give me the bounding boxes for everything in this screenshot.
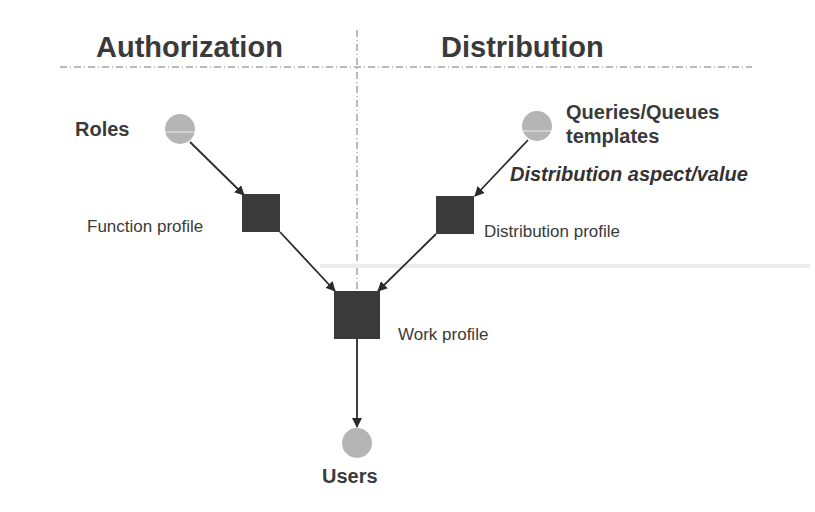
roles-node [165,114,195,144]
users-label: Users [322,466,378,486]
queries-node [522,111,552,141]
edge-distribution-to-work [378,234,436,291]
roles-label: Roles [75,119,129,139]
distribution-profile-label: Distribution profile [484,223,620,240]
users-node [342,428,372,458]
edge-roles-to-function [190,142,244,195]
work-profile-node [334,291,380,339]
queries-label-line2: templates [566,126,659,146]
edge-function-to-work [280,232,335,291]
function-profile-label: Function profile [87,218,203,235]
distribution-profile-node [436,196,474,234]
queries-label-line1: Queries/Queues [566,102,719,122]
authorization-header: Authorization [96,33,283,62]
diagram-canvas [0,0,815,512]
distribution-aspect-label: Distribution aspect/value [510,164,748,184]
work-profile-label: Work profile [398,326,488,343]
function-profile-node [242,194,280,232]
distribution-header: Distribution [441,33,604,62]
